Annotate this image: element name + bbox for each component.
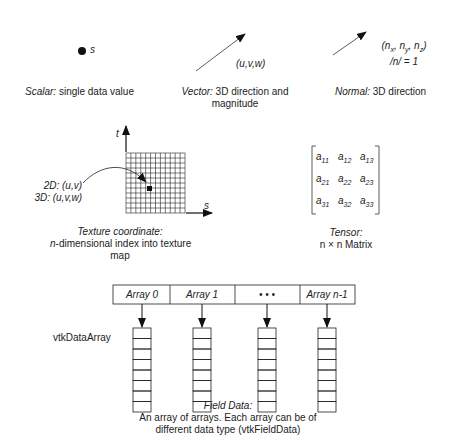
vector-caption: Vector: 3D direction andmagnitude: [175, 86, 295, 110]
curved-pointer-arrow-icon: [83, 167, 146, 183]
array-cell: [258, 339, 276, 350]
array-cell: [193, 360, 211, 371]
array-cell: [318, 339, 336, 350]
field-data-caption-line3: different data type (vtkFieldData): [156, 424, 301, 435]
matrix-entry: a32: [338, 195, 351, 208]
tensor-caption-text: n × n Matrix: [320, 239, 373, 250]
vector-caption-line2: magnitude: [212, 98, 259, 109]
tensor-caption-title: Tensor:: [330, 227, 363, 238]
texture-2d-label: 2D: (u,v): [34, 180, 82, 192]
texture-3d-label: 3D: (u,v,w): [28, 192, 82, 204]
array-cell: [133, 349, 151, 360]
array-cell: [258, 360, 276, 371]
texture-sample-point-icon: [147, 186, 152, 191]
scalar-symbol: s: [90, 44, 95, 56]
matrix-entry: a33: [360, 195, 373, 208]
array-cell: [193, 381, 211, 392]
scalar-caption: Scalar: single data value: [25, 86, 134, 98]
matrix-entry: a13: [360, 151, 373, 164]
array-cell: [318, 349, 336, 360]
texture-grid: [126, 153, 185, 213]
scalar-caption-title: Scalar:: [25, 86, 56, 97]
array-cell: [193, 370, 211, 381]
array-cell: [258, 370, 276, 381]
array-header-label: Array 1: [172, 289, 232, 301]
field-data-caption-title: Field Data:: [204, 400, 252, 411]
array-cell: [258, 328, 276, 339]
texture-caption: Texture coordinate: n-dimensional index …: [50, 226, 190, 262]
vector-caption-text: 3D direction and: [213, 86, 289, 97]
normal-symbol: (nx, ny, nz)/n/ = 1: [374, 40, 434, 68]
array-cell: [258, 381, 276, 392]
array-cell: [318, 328, 336, 339]
t-axis-label: t: [116, 128, 119, 140]
array-cell: [318, 370, 336, 381]
matrix-entry: a31: [316, 195, 329, 208]
array-cell: [258, 349, 276, 360]
array-header-label: Array n-1: [297, 289, 357, 301]
array-cell: [318, 381, 336, 392]
normal-arrow-icon: [333, 32, 366, 55]
array-cell: [133, 339, 151, 350]
matrix-entry: a23: [360, 173, 373, 186]
normal-caption: Normal: 3D direction: [335, 86, 426, 98]
field-data-caption-line2: An array of arrays. Each array can be of: [139, 412, 316, 423]
texture-caption-line3: map: [110, 250, 129, 261]
normal-caption-title: Normal:: [335, 86, 370, 97]
array-header-label: • • •: [237, 289, 297, 301]
scalar-dot-icon: [78, 47, 86, 55]
matrix-entry: a21: [316, 173, 329, 186]
array-cell: [193, 349, 211, 360]
matrix-entry: a22: [338, 173, 351, 186]
texture-caption-text: -dimensional index into texture: [56, 238, 192, 249]
matrix-entry: a12: [338, 151, 351, 164]
vector-caption-title: Vector:: [182, 86, 213, 97]
array-cell: [193, 328, 211, 339]
scalar-caption-text: single data value: [56, 86, 134, 97]
normal-caption-text: 3D direction: [370, 86, 426, 97]
normal-unit-length: /n/ = 1: [390, 56, 418, 67]
tensor-caption: Tensor: n × n Matrix: [316, 227, 376, 251]
array-cell: [133, 381, 151, 392]
vtkdataarray-label: vtkDataArray: [53, 332, 111, 344]
array-cell: [193, 339, 211, 350]
matrix-entry: a11: [316, 151, 329, 164]
vector-symbol: (u,v,w): [236, 58, 265, 70]
field-data-caption: Field Data: An array of arrays. Each arr…: [128, 400, 328, 436]
array-cell: [133, 370, 151, 381]
s-axis-label: s: [204, 200, 209, 212]
array-cell: [133, 360, 151, 371]
texture-caption-title: Texture coordinate:: [77, 226, 162, 237]
array-cell: [133, 328, 151, 339]
array-header-label: Array 0: [112, 289, 172, 301]
matrix-right-bracket: [375, 146, 379, 214]
array-cell: [318, 360, 336, 371]
